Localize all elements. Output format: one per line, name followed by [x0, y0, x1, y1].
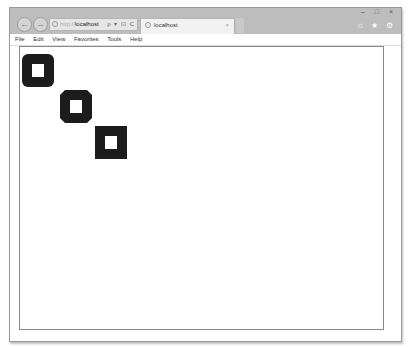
menu-edit[interactable]: Edit: [33, 34, 43, 45]
square-bevel-join: [60, 90, 92, 123]
drawing-canvas: [19, 46, 384, 330]
favorites-star-icon[interactable]: ★: [371, 21, 378, 30]
tab-title: localhost: [154, 22, 178, 28]
square-hole: [32, 64, 44, 77]
menu-help[interactable]: Help: [130, 34, 142, 45]
new-tab-button[interactable]: [236, 18, 244, 33]
page-content: [10, 46, 401, 341]
maximize-icon[interactable]: □: [375, 8, 379, 15]
menu-view[interactable]: View: [52, 34, 65, 45]
forward-button[interactable]: →: [33, 17, 48, 32]
back-arrow-icon: ←: [20, 19, 29, 29]
window-controls: – □ ×: [353, 8, 393, 15]
title-bar: ← → http://localhost ρ ▾ ⊡ C localhost ×…: [10, 8, 401, 34]
browser-toolbar-icons: ⌂ ★ ⚙: [352, 21, 393, 30]
menu-tools[interactable]: Tools: [107, 34, 121, 45]
menu-file[interactable]: File: [15, 34, 25, 45]
menu-favorites[interactable]: Favorites: [74, 34, 99, 45]
address-bar-tools[interactable]: ρ ▾ ⊡ C: [107, 19, 135, 30]
minimize-icon[interactable]: –: [361, 8, 365, 15]
back-button[interactable]: ←: [17, 17, 32, 32]
page-icon: [52, 21, 58, 27]
square-hole: [70, 100, 82, 113]
tab-close-icon[interactable]: ×: [225, 19, 229, 32]
address-bar[interactable]: http://localhost ρ ▾ ⊡ C: [49, 18, 138, 31]
url-protocol: http://: [60, 21, 75, 27]
square-miter-join: [95, 126, 127, 159]
forward-arrow-icon: →: [36, 19, 45, 29]
tab-localhost[interactable]: localhost ×: [140, 18, 235, 34]
menu-bar: File Edit View Favorites Tools Help: [10, 34, 401, 46]
browser-window: ← → http://localhost ρ ▾ ⊡ C localhost ×…: [9, 7, 402, 342]
tools-gear-icon[interactable]: ⚙: [386, 21, 393, 30]
square-round-join: [22, 54, 54, 87]
close-icon[interactable]: ×: [389, 8, 393, 15]
home-icon[interactable]: ⌂: [358, 21, 363, 30]
tab-page-icon: [145, 22, 151, 28]
square-hole: [105, 136, 117, 149]
url-host: localhost: [75, 21, 99, 27]
